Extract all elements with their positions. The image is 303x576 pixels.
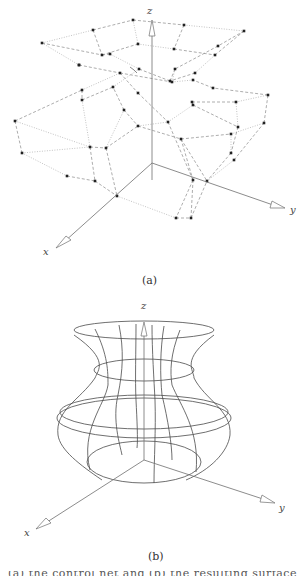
control-point bbox=[171, 81, 174, 84]
control-net-edge bbox=[82, 100, 90, 147]
control-point bbox=[175, 217, 178, 220]
control-net-edge bbox=[15, 90, 82, 121]
surface-meridian bbox=[116, 325, 122, 455]
control-net-edge bbox=[191, 181, 207, 218]
z-axis-arrowhead bbox=[141, 322, 147, 336]
control-point bbox=[190, 217, 193, 220]
y-axis-label: y bbox=[289, 204, 296, 215]
control-net-edge bbox=[124, 110, 138, 126]
control-point bbox=[81, 99, 84, 102]
control-point bbox=[81, 89, 84, 92]
control-point bbox=[180, 138, 183, 141]
control-point bbox=[101, 54, 104, 57]
y-axis-arrowhead bbox=[270, 201, 285, 208]
control-point bbox=[66, 175, 69, 178]
control-net-edge bbox=[138, 44, 174, 49]
control-point bbox=[41, 42, 44, 45]
control-point bbox=[230, 152, 233, 155]
control-point bbox=[243, 30, 246, 33]
control-net-edge bbox=[93, 30, 102, 55]
control-net-edge bbox=[168, 105, 193, 122]
control-net-edge bbox=[231, 127, 238, 153]
x-axis-label: x bbox=[43, 246, 49, 257]
control-point bbox=[263, 122, 266, 125]
control-net-edge bbox=[42, 43, 102, 55]
control-net-edge bbox=[90, 147, 95, 181]
control-point bbox=[137, 92, 140, 95]
control-net-edge bbox=[106, 110, 124, 148]
control-net-edge bbox=[236, 95, 268, 102]
z-axis-label: z bbox=[146, 5, 153, 16]
y-axis bbox=[144, 460, 266, 500]
caption-a: (a) bbox=[142, 274, 157, 287]
control-point bbox=[112, 86, 115, 89]
control-net-edge bbox=[117, 196, 176, 218]
x-axis-arrowhead bbox=[36, 518, 51, 529]
control-point bbox=[192, 104, 195, 107]
control-point bbox=[194, 72, 197, 75]
control-net-edge bbox=[207, 153, 231, 181]
z-axis-label: z bbox=[140, 300, 147, 311]
control-point bbox=[230, 133, 233, 136]
control-net-edge bbox=[133, 20, 138, 44]
control-point bbox=[137, 125, 140, 128]
control-net-edge bbox=[95, 181, 117, 196]
y-axis-arrowhead bbox=[260, 495, 275, 503]
caption-b: (b) bbox=[148, 550, 164, 563]
control-point bbox=[267, 94, 270, 97]
control-net-edge bbox=[82, 87, 113, 100]
control-net-edge bbox=[42, 43, 79, 65]
surface-meridian bbox=[152, 325, 155, 483]
truncated-caption-line: (a) the control net and (b) the resultin… bbox=[0, 571, 303, 576]
control-net-edge bbox=[174, 25, 184, 49]
control-point bbox=[105, 147, 108, 150]
control-net-edge bbox=[193, 105, 238, 127]
control-point bbox=[214, 54, 217, 57]
control-point bbox=[192, 79, 195, 82]
control-point bbox=[235, 101, 238, 104]
control-point bbox=[119, 72, 122, 75]
control-net-edge bbox=[22, 153, 67, 176]
center-marker bbox=[130, 67, 137, 73]
control-net-edge bbox=[218, 31, 244, 46]
control-net-edge bbox=[138, 93, 168, 122]
surface-meridian bbox=[186, 335, 230, 480]
control-net-edge bbox=[215, 31, 244, 55]
control-point bbox=[94, 180, 97, 183]
surface-meridian bbox=[58, 335, 102, 480]
surface-meridian bbox=[88, 329, 108, 470]
y-axis-label: y bbox=[278, 502, 285, 513]
control-net-edge bbox=[113, 87, 124, 110]
control-net-edge bbox=[79, 65, 120, 73]
control-net-edge bbox=[175, 46, 218, 69]
control-net-edge bbox=[138, 122, 168, 126]
x-axis bbox=[44, 460, 144, 524]
panel-b-axes: z y x bbox=[24, 300, 285, 538]
control-point bbox=[217, 45, 220, 48]
control-net-edge bbox=[174, 49, 215, 55]
control-point bbox=[191, 101, 194, 104]
control-net-edge bbox=[15, 121, 22, 153]
control-net-edge bbox=[90, 147, 106, 148]
control-point bbox=[21, 152, 24, 155]
panel-a-control-net bbox=[14, 19, 270, 220]
control-net-edge bbox=[120, 73, 172, 82]
control-point bbox=[138, 68, 141, 71]
control-point bbox=[14, 120, 17, 123]
control-net-edge bbox=[213, 88, 268, 95]
control-point bbox=[167, 121, 170, 124]
control-net-edge bbox=[67, 176, 95, 181]
control-net-edge bbox=[184, 25, 244, 31]
control-net-edge bbox=[236, 102, 238, 127]
y-axis bbox=[152, 163, 276, 206]
control-net-edge bbox=[106, 126, 138, 148]
control-net-edge bbox=[181, 134, 231, 139]
control-point bbox=[109, 53, 112, 56]
control-net-edge bbox=[176, 180, 193, 218]
control-net-edge bbox=[168, 122, 193, 180]
control-point bbox=[89, 146, 92, 149]
control-point bbox=[137, 43, 140, 46]
control-net-edge bbox=[193, 80, 213, 88]
control-point bbox=[233, 159, 236, 162]
control-net-edge bbox=[106, 148, 117, 196]
